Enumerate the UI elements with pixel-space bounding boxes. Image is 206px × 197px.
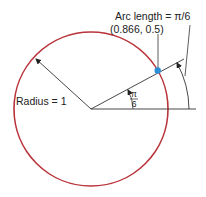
angle-ray [91, 59, 184, 109]
arc-length-label: Arc length = π/6 [115, 10, 190, 22]
arc-label-leader [185, 25, 190, 76]
radius-label: Radius = 1 [16, 95, 67, 107]
angle-numerator: π [131, 89, 137, 99]
point-coordinate-label: (0.866, 0.5) [110, 23, 164, 35]
point-marker [154, 67, 160, 73]
unit-circle-diagram: Arc length = π/6 (0.866, 0.5) Radius = 1… [0, 0, 206, 197]
angle-denominator: 6 [132, 99, 137, 109]
arc-length-arc [177, 63, 189, 109]
